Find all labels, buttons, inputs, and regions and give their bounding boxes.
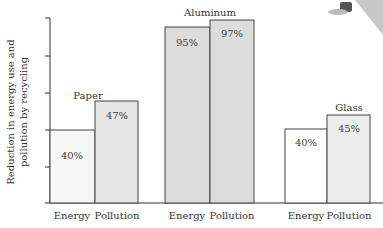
svg-text:Reduction in energy use and: Reduction in energy use and xyxy=(5,39,16,185)
group-label-aluminum: Aluminum xyxy=(183,7,236,18)
value-label: 47% xyxy=(106,110,128,121)
value-label: 45% xyxy=(338,123,360,134)
recycling-bar-chart: Reduction in energy use and pollution by… xyxy=(0,0,383,228)
group-aluminum: Aluminum 95% 97% Energy Pollution xyxy=(165,7,255,221)
svg-text:pollution by recycling: pollution by recycling xyxy=(18,56,29,167)
group-glass: Glass 40% 45% Energy Pollution xyxy=(285,102,372,221)
category-label: Pollution xyxy=(95,210,140,221)
group-label-paper: Paper xyxy=(73,90,103,101)
bar-aluminum-pollution xyxy=(210,20,254,203)
value-label: 95% xyxy=(176,37,198,48)
group-label-glass: Glass xyxy=(335,102,362,113)
category-label: Energy xyxy=(54,210,91,221)
category-label: Energy xyxy=(169,210,206,221)
value-label: 40% xyxy=(295,137,317,148)
category-label: Pollution xyxy=(210,210,255,221)
value-label: 97% xyxy=(221,28,243,39)
category-label: Pollution xyxy=(327,210,372,221)
recycling-photo-decoration xyxy=(328,0,383,35)
bar-paper-energy xyxy=(50,130,95,203)
y-axis-label: Reduction in energy use and pollution by… xyxy=(5,39,29,185)
group-paper: Paper 40% 47% Energy Pollution xyxy=(50,90,140,221)
category-label: Energy xyxy=(288,210,325,221)
value-label: 40% xyxy=(61,150,83,161)
bar-aluminum-energy xyxy=(165,27,210,203)
y-axis xyxy=(45,18,50,203)
